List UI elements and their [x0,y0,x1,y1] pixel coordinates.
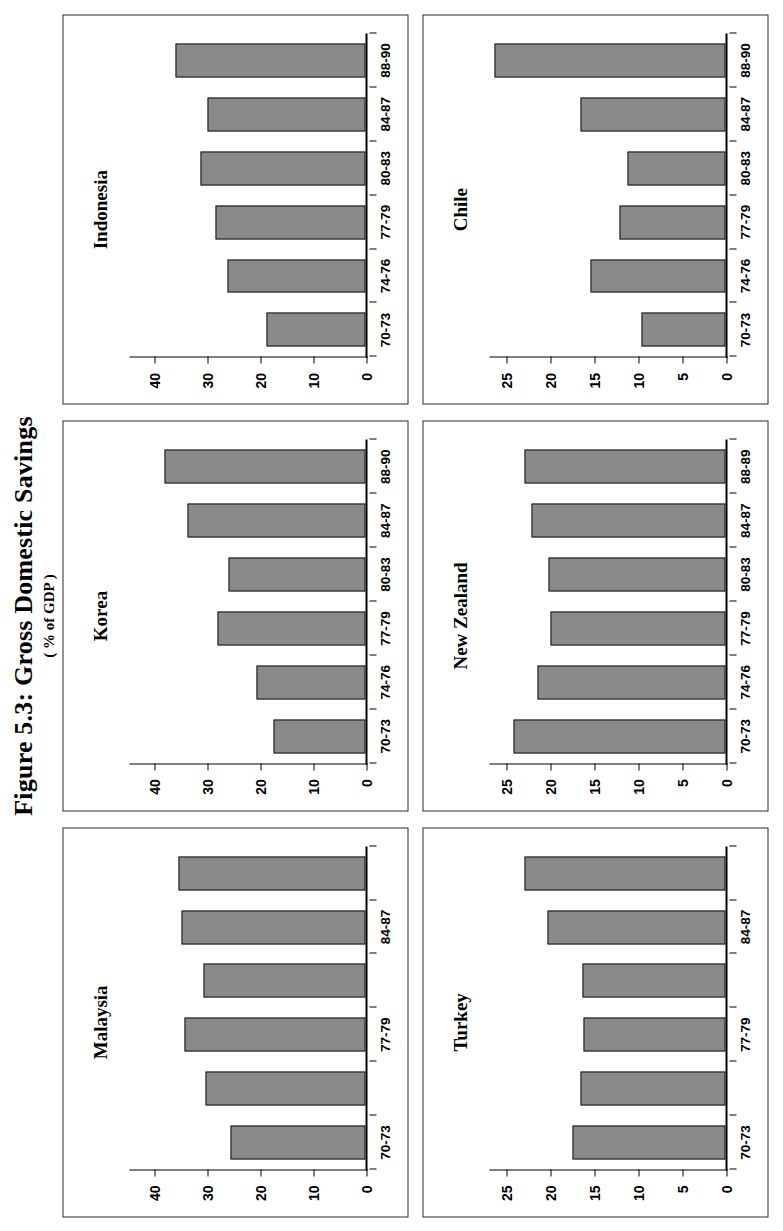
value-axis-tick-label: 10 [630,779,646,795]
category-axis-tick [369,194,376,195]
value-axis-tick-label: 30 [199,779,215,795]
bar [207,97,365,131]
chart-panel-title: Malaysia [89,828,111,1216]
category-axis-label: 77-79 [377,1017,392,1052]
bar [572,1125,725,1159]
bar [582,963,725,997]
value-axis-tick: 20 [260,763,261,770]
category-axis-label: 84-87 [377,97,392,132]
category-axis-label: 70-73 [377,312,392,347]
chart-grid: Malaysia01020304070-7377-7984-87Korea010… [62,14,768,1217]
category-axis-label: 70-73 [737,1125,752,1160]
value-axis-tick-label: 25 [498,372,514,388]
bar [164,449,365,483]
value-axis-tick: 0 [726,763,727,770]
category-axis-tick [369,1006,376,1007]
category-axis-label: 74-76 [377,258,392,293]
value-axis-tick: 25 [506,356,507,363]
value-axis-tick-label: 20 [252,372,268,388]
category-axis-labels: 70-7374-7677-7980-8384-8788-90 [737,33,759,356]
value-axis-tick: 40 [154,763,155,770]
category-axis-tick [369,762,376,763]
category-axis-label: 70-73 [377,718,392,753]
chart-panel: Turkey051015202570-7377-7984-87 [422,827,768,1217]
value-axis-tick: 0 [366,356,367,363]
chart-panel-title: Chile [449,15,471,403]
bar-series [489,33,725,356]
value-axis-tick: 0 [366,1169,367,1176]
plot-area: 051015202570-7374-7677-7980-8384-8788-89 [489,439,727,763]
value-axis-tick-label: 10 [630,372,646,388]
category-axis-label: 70-73 [737,718,752,753]
value-axis-tick-label: 10 [630,1185,646,1201]
value-axis-tick: 0 [366,763,367,770]
value-axis-tick-label: 5 [674,372,690,380]
category-axis-tick [729,438,736,439]
bar [537,665,725,699]
figure-title: Figure 5.3: Gross Domestic Savings [8,0,38,1231]
value-axis-tick-label: 15 [586,372,602,388]
value-axis-tick: 40 [154,356,155,363]
category-axis-labels: 70-7377-7984-87 [377,846,399,1169]
value-axis-tick: 20 [550,356,551,363]
value-axis-tick-label: 25 [498,1185,514,1201]
value-axis-tick: 20 [550,763,551,770]
category-axis-tick [729,762,736,763]
category-axis-label: 88-90 [737,43,752,78]
bar-series [129,846,365,1169]
category-axis-label: 84-87 [377,503,392,538]
category-axis-tick [729,1114,736,1115]
bar [627,151,725,185]
bar [524,856,725,890]
bar [531,503,725,537]
bar [203,963,365,997]
category-axis-label: 70-73 [377,1125,392,1160]
bar [524,449,725,483]
category-axis-label: 80-83 [737,557,752,592]
value-axis-tick-label: 5 [674,1185,690,1193]
bar [175,43,365,77]
bar [273,719,365,753]
value-axis-tick: 5 [682,356,683,363]
category-axis-label: 74-76 [377,665,392,700]
value-axis-tick-label: 30 [199,1185,215,1201]
category-axis-tick [729,952,736,953]
value-axis-tick-label: 20 [542,1185,558,1201]
category-axis-tick [729,600,736,601]
bar-series [489,846,725,1169]
value-axis-tick: 20 [260,1169,261,1176]
plot-area: 051015202570-7374-7677-7980-8384-8788-90 [489,33,727,357]
chart-panel: Indonesia01020304070-7374-7677-7980-8384… [62,14,408,404]
category-axis-tick [729,194,736,195]
category-axis-tick [369,1168,376,1169]
value-axis-tick-label: 0 [358,779,374,787]
category-axis-tick [729,492,736,493]
bar [266,312,365,346]
category-axis-tick [369,438,376,439]
value-axis-tick: 15 [594,763,595,770]
category-axis-tick [369,899,376,900]
value-axis-tick: 25 [506,763,507,770]
category-axis-tick [729,1168,736,1169]
category-axis-tick [369,1114,376,1115]
bar [187,503,365,537]
value-axis-tick-label: 20 [252,1185,268,1201]
value-axis-tick: 10 [638,356,639,363]
value-axis-tick-label: 0 [718,1185,734,1193]
plot-area: 051015202570-7377-7984-87 [489,846,727,1170]
category-axis-tick [729,32,736,33]
value-axis-tick-label: 10 [305,372,321,388]
value-axis-tick: 10 [313,356,314,363]
category-axis-label: 77-79 [377,611,392,646]
bar [205,1071,365,1105]
chart-panel-title: Korea [89,421,111,809]
category-axis-tick [729,140,736,141]
value-axis-tick: 0 [726,1169,727,1176]
bar [548,557,725,591]
category-axis-tick [729,546,736,547]
category-axis-tick [369,248,376,249]
value-axis-tick-label: 15 [586,779,602,795]
chart-panel: Korea01020304070-7374-7677-7980-8384-878… [62,420,408,810]
bar [230,1125,365,1159]
bar [178,856,365,890]
